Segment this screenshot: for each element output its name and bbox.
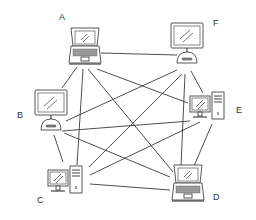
connection-a-c [77,69,83,165]
node-b-imac-icon [35,90,67,130]
connection-f-e [191,71,203,93]
node-label-f: F [213,19,219,28]
node-label-b: B [17,111,23,120]
node-label-d: D [213,193,220,202]
connection-a-b [62,67,77,88]
network-diagram: AFBECD [0,0,256,220]
node-a-laptop-icon [69,28,101,64]
connection-c-d [90,184,170,190]
connection-e-d [194,124,212,166]
connection-f-d [181,74,185,166]
node-f-imac-icon [171,23,203,63]
node-label-e: E [236,106,242,115]
diagram-canvas [0,0,256,220]
node-label-c: C [37,196,44,205]
node-c-desktop-tower-icon [48,166,82,193]
device-icons [35,23,224,201]
connection-a-f [101,53,177,55]
node-e-desktop-tower-icon [190,92,224,119]
node-d-laptop-icon [172,165,204,201]
connection-b-c [54,135,63,162]
node-label-a: A [59,13,65,22]
connection-a-d [88,69,173,172]
